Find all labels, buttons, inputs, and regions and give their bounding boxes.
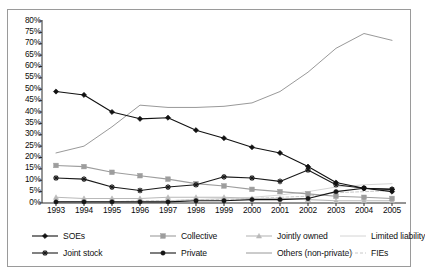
legend-row: Joint stockPrivateOthers (non-private)FI… xyxy=(8,245,410,261)
plot-area: 0%5%10%15%20%25%30%35%40%45%50%55%60%65%… xyxy=(8,10,410,222)
data-point-marker xyxy=(222,199,226,203)
data-point-marker xyxy=(390,196,395,201)
data-point-marker xyxy=(222,184,227,189)
legend-item-joint-stock[interactable]: Joint stock xyxy=(30,245,103,261)
data-point-marker xyxy=(166,177,171,182)
legend-item-private[interactable]: Private xyxy=(148,245,207,261)
legend-marker-icon xyxy=(338,230,368,242)
legend-marker-icon xyxy=(30,230,60,242)
data-point-marker xyxy=(193,182,199,188)
series-line xyxy=(56,34,392,153)
data-point-marker xyxy=(53,89,58,94)
legend-row: SOEsCollectiveJointly ownedLimited liabi… xyxy=(8,228,410,244)
data-point-marker xyxy=(138,173,143,178)
series-others-non-private- xyxy=(56,34,392,153)
legend-item-soes[interactable]: SOEs xyxy=(30,228,85,244)
data-point-marker xyxy=(109,109,114,114)
chart-container: 0%5%10%15%20%25%30%35%40%45%50%55%60%65%… xyxy=(7,9,411,267)
legend-item-jointly-owned[interactable]: Jointly owned xyxy=(244,228,328,244)
chart-legend: SOEsCollectiveJointly ownedLimited liabi… xyxy=(8,228,410,266)
legend-marker-icon xyxy=(244,230,274,242)
x-axis-tick-labels: 1993199419951996199719981999200020012002… xyxy=(8,206,410,222)
data-point-marker xyxy=(250,187,255,192)
data-point-marker xyxy=(194,199,198,203)
data-point-marker xyxy=(54,163,59,168)
legend-item-collective[interactable]: Collective xyxy=(148,228,217,244)
legend-label: Limited liability xyxy=(371,231,425,241)
data-point-marker xyxy=(221,174,227,180)
data-point-marker xyxy=(109,184,115,190)
legend-item-limited-liability[interactable]: Limited liability xyxy=(338,228,425,244)
data-point-marker xyxy=(110,170,115,175)
data-point-marker xyxy=(249,175,255,181)
data-point-marker xyxy=(81,92,86,97)
legend-item-fies[interactable]: FIEs xyxy=(338,245,388,261)
data-point-marker xyxy=(306,192,311,197)
legend-label: Jointly owned xyxy=(277,231,328,241)
data-point-marker xyxy=(221,136,226,141)
data-point-marker xyxy=(165,184,171,190)
data-point-marker xyxy=(53,175,59,181)
data-point-marker xyxy=(166,200,170,204)
data-point-marker xyxy=(81,176,87,182)
legend-label: Collective xyxy=(181,231,217,241)
legend-marker-icon xyxy=(244,247,274,259)
data-point-marker xyxy=(193,128,198,133)
legend-marker-icon xyxy=(148,230,178,242)
series-line xyxy=(56,165,392,198)
legend-marker-icon xyxy=(30,247,60,259)
data-point-marker xyxy=(137,116,142,121)
chart-canvas xyxy=(8,10,410,222)
legend-label: Private xyxy=(181,248,207,258)
data-point-marker xyxy=(137,188,143,194)
legend-item-others-non-private-[interactable]: Others (non-private) xyxy=(244,245,352,261)
data-point-marker xyxy=(161,234,166,239)
data-point-marker xyxy=(277,150,282,155)
legend-label: FIEs xyxy=(371,248,388,258)
legend-marker-icon xyxy=(338,247,368,259)
data-point-marker xyxy=(138,200,142,204)
data-point-marker xyxy=(362,195,367,200)
legend-label: Joint stock xyxy=(63,248,103,258)
data-point-marker xyxy=(42,250,48,256)
data-point-marker xyxy=(278,189,283,194)
data-point-marker xyxy=(250,197,254,201)
data-point-marker xyxy=(277,179,283,185)
data-point-marker xyxy=(42,233,47,238)
data-point-marker xyxy=(334,189,338,193)
data-point-marker xyxy=(54,200,58,204)
data-point-marker xyxy=(110,200,114,204)
legend-marker-icon xyxy=(148,247,178,259)
data-point-marker xyxy=(278,197,282,201)
data-point-marker xyxy=(249,145,254,150)
data-point-marker xyxy=(82,164,87,169)
data-point-marker xyxy=(161,251,165,255)
legend-label: SOEs xyxy=(63,231,85,241)
x-axis-tick-label: 2005 xyxy=(375,206,409,215)
data-point-marker xyxy=(82,200,86,204)
data-point-marker xyxy=(165,115,170,120)
data-point-marker xyxy=(334,194,339,199)
data-point-marker xyxy=(306,196,310,200)
